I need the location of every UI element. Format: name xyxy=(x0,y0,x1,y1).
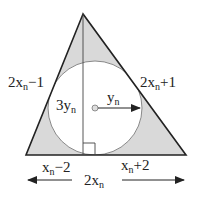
base-right-label: xn+2 xyxy=(121,157,149,175)
left-side-label: 2xn−1 xyxy=(8,74,44,92)
right-side-label: 2xn+1 xyxy=(140,74,176,92)
triangle-diagram: 2xn−1 2xn+1 3yn yn xn−2 xn+2 2xn xyxy=(0,0,198,197)
center-dot xyxy=(92,105,98,111)
base-left-label: xn−2 xyxy=(42,159,70,177)
diagram-canvas: 2xn−1 2xn+1 3yn yn xn−2 xn+2 2xn xyxy=(0,0,198,197)
base-total-label: 2xn xyxy=(84,172,104,190)
